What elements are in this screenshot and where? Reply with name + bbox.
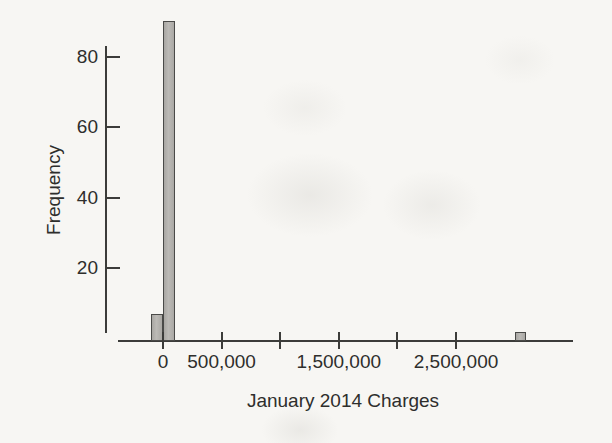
x-tick bbox=[162, 332, 164, 349]
x-tick bbox=[338, 332, 340, 349]
y-tick-label: 80 bbox=[40, 47, 98, 67]
y-axis-line bbox=[105, 46, 107, 333]
x-axis-title: January 2014 Charges bbox=[193, 390, 493, 412]
x-axis-line bbox=[118, 340, 573, 342]
y-tick bbox=[106, 56, 120, 58]
x-tick bbox=[396, 332, 398, 349]
histogram-figure: 0500,0001,500,0002,500,00020406080 Frequ… bbox=[0, 0, 612, 443]
y-tick bbox=[106, 267, 120, 269]
histogram-bar bbox=[163, 21, 175, 341]
y-tick bbox=[106, 197, 120, 199]
x-tick bbox=[221, 332, 223, 349]
y-tick bbox=[106, 126, 120, 128]
y-axis-title: Frequency bbox=[42, 90, 66, 290]
histogram-bar bbox=[515, 332, 527, 341]
x-tick-label: 2,500,000 bbox=[386, 351, 526, 373]
x-tick bbox=[279, 332, 281, 349]
x-tick bbox=[455, 332, 457, 349]
